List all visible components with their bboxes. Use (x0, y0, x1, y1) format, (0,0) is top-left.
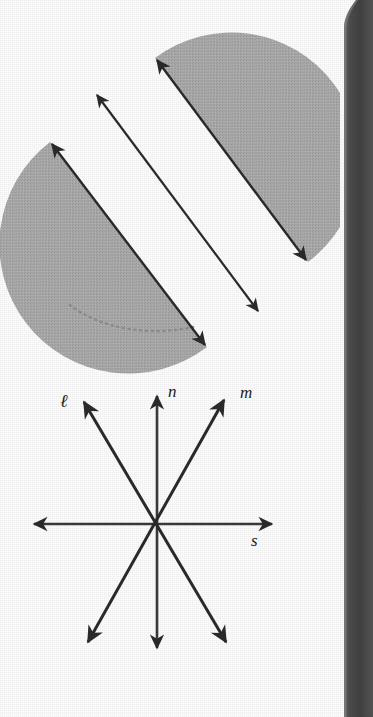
line-label-n: n (168, 383, 177, 400)
lower-figure-concurrent-lines (0, 370, 320, 670)
half-plane-upper-right (155, 33, 340, 263)
upper-figure-parallel-half-planes (0, 0, 340, 380)
line-label-m: m (240, 384, 252, 401)
line-label-s: s (251, 532, 258, 549)
half-plane-lower-left (0, 142, 207, 374)
line-label-l: ℓ (60, 392, 68, 410)
figure-page: ℓ n m s (0, 0, 373, 717)
